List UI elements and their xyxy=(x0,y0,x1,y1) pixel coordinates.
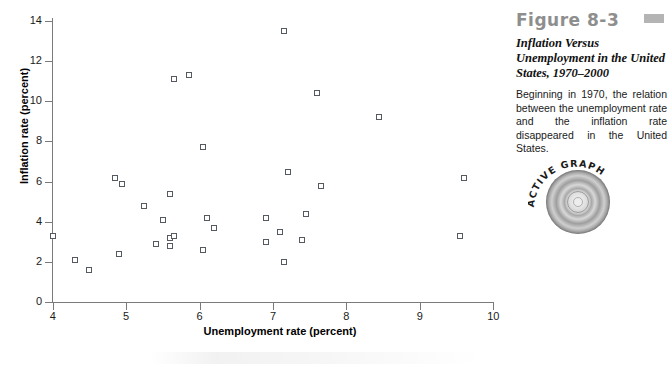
data-point xyxy=(299,237,305,243)
y-tick-label-wrap: 14 xyxy=(12,15,42,26)
data-point xyxy=(200,247,206,253)
data-point xyxy=(303,211,309,217)
data-point xyxy=(211,225,217,231)
x-tick-label: 8 xyxy=(331,311,361,322)
x-tick xyxy=(126,303,127,310)
scatter-chart: 02468101214 45678910 Unemployment rate (… xyxy=(0,0,510,340)
data-point xyxy=(167,243,173,249)
x-tick-label: 5 xyxy=(111,311,141,322)
y-tick-label: 14 xyxy=(18,15,42,26)
x-tick-label: 4 xyxy=(38,311,68,322)
data-point xyxy=(200,144,206,150)
data-point xyxy=(160,217,166,223)
page-scan-artifact xyxy=(150,352,480,364)
data-point xyxy=(376,114,382,120)
figure-description: Beginning in 1970, the relation between … xyxy=(516,88,667,156)
data-point xyxy=(263,239,269,245)
active-graph-arc-text: ACTIVE GRAPH xyxy=(528,152,620,244)
x-axis-title: Unemployment rate (percent) xyxy=(120,325,440,337)
figure-swatch xyxy=(644,14,664,23)
data-point xyxy=(171,76,177,82)
x-tick-label: 6 xyxy=(185,311,215,322)
x-tick xyxy=(493,303,494,310)
y-tick-label: 4 xyxy=(18,216,42,227)
x-tick xyxy=(200,303,201,310)
data-point xyxy=(204,215,210,221)
data-point xyxy=(50,233,56,239)
figure-header: Figure 8-3 xyxy=(516,10,669,32)
x-tick-label: 9 xyxy=(405,311,435,322)
figure-title: Inflation Versus Unemployment in the Uni… xyxy=(516,36,666,81)
x-tick xyxy=(346,303,347,310)
y-tick-label: 2 xyxy=(18,256,42,267)
data-point xyxy=(116,251,122,257)
y-tick-label: 0 xyxy=(18,296,42,307)
data-point xyxy=(72,257,78,263)
x-tick xyxy=(273,303,274,310)
x-tick-label: 7 xyxy=(258,311,288,322)
data-point xyxy=(457,233,463,239)
figure-root: 02468101214 45678910 Unemployment rate (… xyxy=(0,0,669,369)
figure-caption-panel: Figure 8-3 Inflation Versus Unemployment… xyxy=(516,0,669,369)
data-point xyxy=(112,175,118,181)
x-tick xyxy=(420,303,421,310)
x-tick-label: 10 xyxy=(478,311,508,322)
data-point xyxy=(277,229,283,235)
y-axis-title: Inflation rate (percent) xyxy=(18,36,30,216)
data-point xyxy=(263,215,269,221)
data-point xyxy=(86,267,92,273)
y-tick-label-wrap: 4 xyxy=(12,216,42,227)
data-point xyxy=(119,181,125,187)
data-point xyxy=(171,233,177,239)
x-tick xyxy=(53,303,54,310)
data-point xyxy=(186,72,192,78)
data-point xyxy=(285,169,291,175)
data-point xyxy=(314,90,320,96)
y-tick-label-wrap: 2 xyxy=(12,256,42,267)
active-graph-badge[interactable]: ACTIVE GRAPH xyxy=(528,152,620,244)
y-tick-label-wrap: 0 xyxy=(12,296,42,307)
data-point xyxy=(461,175,467,181)
data-point xyxy=(318,183,324,189)
data-point xyxy=(153,241,159,247)
plot-area xyxy=(52,18,494,303)
data-point xyxy=(281,259,287,265)
figure-number: Figure 8-3 xyxy=(516,10,619,30)
svg-text:ACTIVE GRAPH: ACTIVE GRAPH xyxy=(528,158,608,208)
data-point xyxy=(281,28,287,34)
data-point xyxy=(141,203,147,209)
data-point xyxy=(167,191,173,197)
